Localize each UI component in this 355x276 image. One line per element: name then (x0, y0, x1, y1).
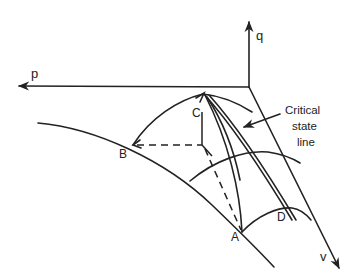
point-label-A: A (231, 230, 239, 244)
annotation-line-2: state (292, 120, 317, 132)
point-label-D: D (277, 210, 286, 224)
critical-state-diagram: p q v C B A D Critical state line (0, 0, 355, 276)
arrowhead-at-B (133, 140, 141, 148)
p-axis-label: p (31, 66, 38, 81)
p-axis (19, 86, 249, 87)
point-label-B: B (119, 147, 127, 161)
v-axis-label: v (320, 249, 327, 264)
annotation-line-3: line (297, 136, 315, 148)
q-axis-label: q (256, 28, 263, 43)
point-label-C: C (192, 106, 201, 120)
annotation-pointer (244, 114, 280, 127)
constant-v-arc-upper (190, 152, 300, 181)
annotation-line-1: Critical (285, 104, 320, 116)
